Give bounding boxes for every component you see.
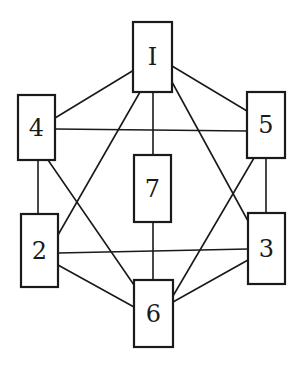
edge-1-3: [172, 82, 248, 221]
node-label: I: [148, 43, 157, 71]
nodes-layer: I457236: [18, 22, 285, 347]
edge-1-5: [172, 66, 247, 111]
edge-4-5: [55, 129, 247, 131]
node-5: 5: [247, 92, 285, 158]
node-label: 2: [32, 237, 47, 265]
node-label: 5: [258, 111, 273, 139]
graph-diagram: I457236: [0, 0, 305, 373]
edge-3-6: [173, 260, 248, 302]
node-label: 7: [145, 175, 160, 203]
node-label: 6: [146, 300, 161, 328]
edge-1-2: [58, 92, 140, 235]
node-label: 3: [259, 235, 274, 263]
node-4: 4: [18, 95, 55, 160]
node-1: I: [133, 22, 172, 92]
node-6: 6: [134, 280, 173, 347]
node-label: 4: [29, 114, 44, 142]
edge-2-6: [58, 265, 134, 307]
edge-5-6: [173, 158, 254, 296]
node-3: 3: [248, 213, 285, 284]
node-2: 2: [21, 214, 58, 287]
node-7: 7: [134, 155, 171, 222]
edge-1-4: [55, 70, 134, 118]
